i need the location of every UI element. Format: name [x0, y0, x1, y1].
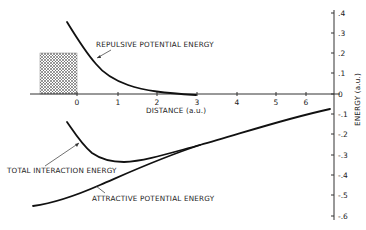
attractive-label: ATTRACTIVE POTENTIAL ENERGY	[92, 194, 215, 203]
y-tick-label: .1	[338, 69, 345, 78]
x-axis-title: DISTANCE (a.u.)	[146, 106, 206, 115]
repulsive-arrowhead	[97, 55, 101, 58]
repulsive-label: REPULSIVE POTENTIAL ENERGY	[96, 40, 214, 49]
x-tick-label: 1	[116, 98, 121, 107]
y-tick-label: .3	[338, 29, 345, 38]
total-arrow	[45, 143, 79, 166]
y-tick-label: -.5	[338, 191, 348, 200]
energy-chart: 0123456 .4.3.2.10-.1-.2-.3-.4-.5-.6 REPU…	[0, 0, 366, 230]
y-tick-label: 0	[338, 90, 343, 99]
x-tick-label: 6	[304, 98, 309, 107]
total-interaction-curve	[67, 109, 330, 162]
y-tick-label: -.4	[338, 171, 348, 180]
y-tick-label: -.1	[338, 110, 348, 119]
repulsive-curve	[67, 22, 196, 95]
total-interaction-label: TOTAL INTERACTION ENERGY	[6, 166, 117, 175]
y-tick-label: -.6	[338, 212, 348, 221]
attractive-arrow	[96, 186, 105, 193]
y-tick-label: .4	[338, 9, 345, 18]
y-tick-label: -.2	[338, 130, 348, 139]
x-tick-label: 4	[235, 98, 240, 107]
y-tick-label: -.3	[338, 151, 348, 160]
y-tick-label: .2	[338, 49, 345, 58]
y-axis-title: ENERGY (a.u.)	[353, 73, 362, 126]
x-tick-label: 5	[274, 98, 279, 107]
hatched-region	[40, 53, 77, 94]
x-tick-label: 0	[75, 98, 80, 107]
